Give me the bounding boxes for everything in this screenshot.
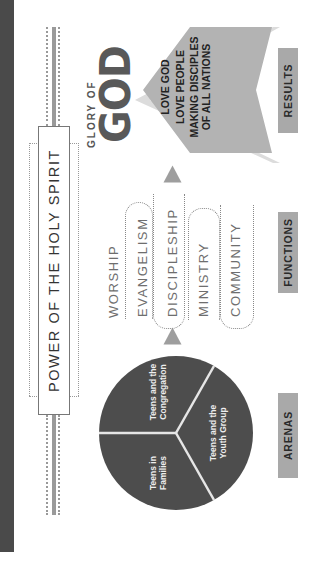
- result-item: OF ALL NATIONS: [200, 27, 212, 147]
- result-item: LOVE GOD: [158, 27, 173, 147]
- arenas-label: ARENAS: [278, 393, 298, 478]
- god-heading: GOD: [95, 46, 135, 143]
- function-worship: WORSHIP: [106, 245, 121, 318]
- arena-label-line: Congregation: [158, 357, 168, 427]
- diagram-canvas: POWER OF THE HOLY SPIRIT GLORY OF GOD LO…: [0, 0, 315, 573]
- arena-label-line: Teens and the: [148, 357, 158, 427]
- rod-right: [52, 27, 56, 126]
- result-item: MAKING DISCIPLES: [188, 27, 200, 147]
- result-item: LOVE PEOPLE: [173, 27, 188, 147]
- arena-label-line: Families: [158, 438, 168, 508]
- arrow-up-icon: [164, 166, 182, 183]
- arenas-label-text: ARENAS: [282, 411, 294, 460]
- arena-families: Teens in Families: [148, 438, 168, 508]
- results-label: RESULTS: [278, 48, 298, 133]
- function-discipleship: DISCIPLESHIP: [165, 208, 180, 317]
- arena-congregation: Teens and the Congregation: [148, 357, 168, 427]
- function-evangelism: EVANGELISM: [135, 217, 150, 317]
- results-list: LOVE GOD LOVE PEOPLE MAKING DISCIPLES OF…: [158, 27, 212, 147]
- arenas-pie-chart: [96, 353, 256, 513]
- functions-label-text: FUNCTIONS: [282, 218, 294, 286]
- holy-spirit-text: POWER OF THE HOLY SPIRIT: [46, 149, 62, 392]
- function-ministry: MINISTRY: [196, 242, 211, 317]
- results-label-text: RESULTS: [282, 64, 294, 118]
- arrow-up-icon: [164, 328, 182, 345]
- rod-left: [52, 415, 56, 515]
- functions-label: FUNCTIONS: [278, 212, 298, 293]
- function-community: COMMUNITY: [228, 222, 243, 317]
- arena-label-line: Youth Group: [218, 398, 228, 468]
- arena-label-line: Teens in: [148, 438, 158, 508]
- dark-side-bar: [0, 0, 14, 552]
- arena-youth-group: Teens and the Youth Group: [208, 398, 228, 468]
- holy-spirit-banner: POWER OF THE HOLY SPIRIT: [38, 126, 70, 415]
- arena-label-line: Teens and the: [208, 398, 218, 468]
